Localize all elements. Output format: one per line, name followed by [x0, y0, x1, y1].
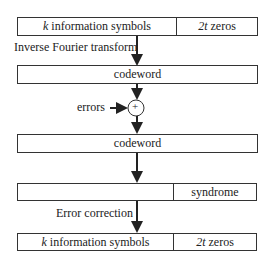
info-symbols-label-bottom: information symbols: [50, 235, 150, 250]
k-variable: k: [43, 19, 48, 34]
k-variable-bottom: k: [42, 235, 47, 250]
2t-variable-bottom: 2t: [196, 235, 205, 250]
codeword-label-2: codeword: [18, 135, 257, 152]
bottom-box: k information symbols 2t zeros: [17, 233, 257, 251]
syndrome-empty-cell: [18, 184, 173, 200]
codeword-label-1: codeword: [18, 66, 257, 83]
zeros-cell-bottom: 2t zeros: [173, 234, 256, 250]
info-symbols-cell-bottom: k information symbols: [18, 234, 173, 250]
info-symbols-label: information symbols: [51, 19, 151, 34]
adder-plus-symbol: +: [132, 100, 138, 112]
codeword-box-2: codeword: [17, 134, 258, 153]
error-correction-label: Error correction: [56, 206, 133, 221]
zeros-label: zeros: [211, 19, 236, 34]
zeros-label-bottom: zeros: [209, 235, 234, 250]
inverse-fourier-label: Inverse Fourier transform: [14, 40, 137, 55]
errors-label: errors: [77, 100, 105, 115]
codeword-box-1: codeword: [17, 65, 258, 84]
top-box: k information symbols 2t zeros: [17, 17, 258, 36]
zeros-cell: 2t zeros: [176, 18, 257, 35]
syndrome-box: syndrome: [17, 183, 257, 201]
info-symbols-cell: k information symbols: [18, 18, 176, 35]
2t-variable: 2t: [198, 19, 207, 34]
syndrome-cell: syndrome: [173, 184, 256, 200]
